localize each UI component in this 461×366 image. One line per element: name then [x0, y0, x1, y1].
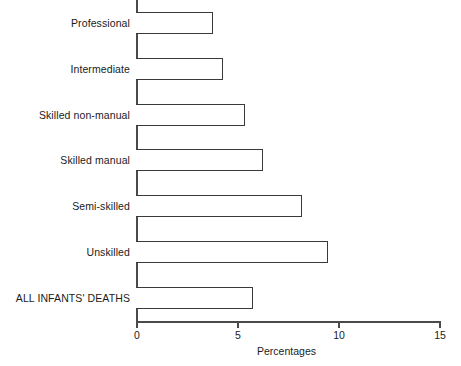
- bar-category-label: Unskilled: [87, 246, 131, 258]
- x-axis-tick: [338, 321, 340, 328]
- bar-row: Professional: [136, 0, 461, 46]
- x-axis-tick-label: 0: [134, 329, 140, 341]
- bar-chart: ProfessionalIntermediateSkilled non-manu…: [0, 0, 461, 366]
- bar-category-label: Skilled manual: [60, 154, 130, 166]
- bar-row: Skilled non-manual: [136, 92, 461, 138]
- bar-category-label: Semi-skilled: [72, 200, 130, 212]
- x-axis-title: Percentages: [0, 345, 461, 357]
- bar: [136, 104, 245, 126]
- bar: [136, 195, 302, 217]
- bar-category-label: Intermediate: [70, 63, 130, 75]
- bar-row: ALL INFANTS' DEATHS: [136, 275, 461, 321]
- x-axis-tick-label: 15: [434, 329, 446, 341]
- x-axis-tick-label: 5: [235, 329, 241, 341]
- x-axis-tick: [237, 321, 239, 328]
- bar-row: Semi-skilled: [136, 183, 461, 229]
- x-axis-tick: [136, 321, 138, 328]
- bar: [136, 241, 328, 263]
- x-axis-tick: [439, 321, 441, 328]
- x-axis-tick-label: 10: [333, 329, 345, 341]
- x-axis-title-text: Percentages: [257, 345, 316, 357]
- bar: [136, 287, 253, 309]
- bar-row: Unskilled: [136, 229, 461, 275]
- plot-area: ProfessionalIntermediateSkilled non-manu…: [136, 0, 461, 321]
- bar: [136, 149, 263, 171]
- bar-row: Intermediate: [136, 46, 461, 92]
- bar-category-label: Professional: [71, 17, 130, 29]
- bar-row: Skilled manual: [136, 138, 461, 184]
- bar: [136, 12, 213, 34]
- x-axis-line: [136, 321, 439, 323]
- bar-category-label: Skilled non-manual: [39, 109, 130, 121]
- bar: [136, 58, 223, 80]
- bar-category-label: ALL INFANTS' DEATHS: [16, 292, 130, 304]
